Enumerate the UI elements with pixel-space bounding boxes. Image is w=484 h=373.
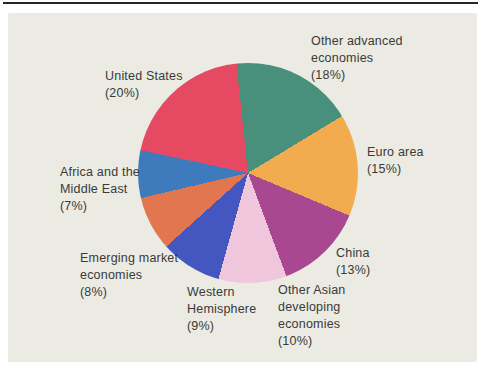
slice-label-euro-area: Euro area (15%) — [367, 144, 424, 178]
top-horizontal-rule — [3, 2, 478, 4]
slice-label-united-states: United States (20%) — [105, 68, 183, 102]
chart-panel: Other advanced economies (18%) Euro area… — [8, 13, 477, 362]
slice-label-emerging-market-economies: Emerging market economies (8%) — [80, 250, 178, 301]
slice-label-other-advanced-economies: Other advanced economies (18%) — [311, 33, 403, 84]
slice-label-other-asian-developing-economies: Other Asian developing economies (10%) — [278, 282, 346, 350]
slice-label-china: China (13%) — [336, 245, 370, 279]
slice-label-western-hemisphere: Western Hemisphere (9%) — [187, 284, 256, 335]
figure-page: Other advanced economies (18%) Euro area… — [0, 0, 484, 373]
slice-label-africa-and-the-middle-east: Africa and the Middle East (7%) — [60, 164, 140, 215]
